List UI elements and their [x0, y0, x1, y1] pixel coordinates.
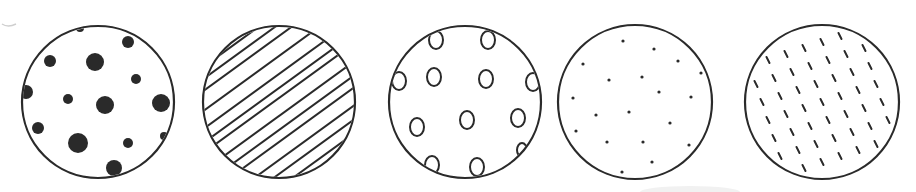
dot — [668, 121, 671, 124]
dot — [652, 47, 655, 50]
dash — [839, 153, 842, 159]
dash — [827, 117, 830, 123]
circle-hollow-ovals — [389, 26, 541, 178]
dash — [785, 51, 788, 57]
oval — [427, 68, 441, 86]
dash — [809, 123, 812, 129]
dash — [839, 33, 842, 39]
dash — [767, 57, 770, 63]
dash — [803, 165, 806, 171]
dot — [657, 90, 660, 93]
dot — [605, 140, 608, 143]
dash — [851, 69, 854, 75]
dot — [581, 62, 584, 65]
dot — [106, 160, 122, 176]
oval — [479, 70, 493, 88]
dash — [773, 75, 776, 81]
dash — [803, 45, 806, 51]
dash — [755, 81, 758, 87]
dash — [887, 117, 890, 123]
dash — [857, 87, 860, 93]
dash — [809, 63, 812, 69]
dash — [827, 57, 830, 63]
dash — [869, 63, 872, 69]
circle-fine-dots — [558, 25, 712, 179]
dot — [131, 74, 141, 84]
dash — [863, 105, 866, 111]
dash — [833, 135, 836, 141]
oval — [511, 109, 525, 127]
dot — [607, 78, 610, 81]
dot — [86, 53, 104, 71]
circle-outline — [203, 26, 355, 178]
dot — [63, 94, 73, 104]
oval — [410, 118, 424, 136]
dash — [791, 129, 794, 135]
circle-outline — [389, 26, 541, 178]
dot — [676, 59, 679, 62]
dash — [863, 45, 866, 51]
dot — [689, 95, 692, 98]
circle-large-dots — [19, 24, 174, 178]
dot — [594, 113, 597, 116]
circle-outline — [558, 25, 712, 179]
dot — [650, 160, 653, 163]
oval — [470, 158, 484, 176]
dot — [571, 96, 574, 99]
dash — [821, 99, 824, 105]
dot — [122, 36, 134, 48]
dot — [627, 110, 630, 113]
dash — [785, 111, 788, 117]
dash — [803, 105, 806, 111]
corner-arc-mark — [2, 24, 16, 26]
dash — [839, 93, 842, 99]
dot — [96, 96, 114, 114]
dot — [574, 129, 577, 132]
dash — [815, 81, 818, 87]
pattern-circles-diagram — [0, 0, 916, 192]
dash — [851, 129, 854, 135]
dash — [845, 51, 848, 57]
dot — [32, 122, 44, 134]
dash — [797, 147, 800, 153]
dot — [621, 39, 624, 42]
dot — [152, 94, 170, 112]
dash — [767, 117, 770, 123]
dash — [773, 135, 776, 141]
circle-short-dashes — [745, 25, 899, 179]
circle-diagonal-hatching — [169, 0, 389, 192]
dot — [640, 75, 643, 78]
dash — [881, 99, 884, 105]
dash — [833, 75, 836, 81]
dash — [815, 141, 818, 147]
dot — [699, 71, 702, 74]
oval — [460, 111, 474, 129]
dash — [869, 123, 872, 129]
dot — [44, 55, 56, 67]
dot — [123, 138, 133, 148]
dash — [779, 93, 782, 99]
dash — [797, 87, 800, 93]
dash — [821, 39, 824, 45]
oval — [481, 31, 495, 49]
dot — [641, 140, 644, 143]
dash — [821, 159, 824, 165]
dash — [761, 99, 764, 105]
dot — [68, 133, 88, 153]
dot — [620, 170, 623, 173]
dash — [875, 141, 878, 147]
dash — [779, 153, 782, 159]
dot — [687, 143, 690, 146]
dash — [845, 111, 848, 117]
dash — [875, 81, 878, 87]
smudge-mark — [640, 186, 740, 192]
dash — [857, 147, 860, 153]
dash — [791, 69, 794, 75]
